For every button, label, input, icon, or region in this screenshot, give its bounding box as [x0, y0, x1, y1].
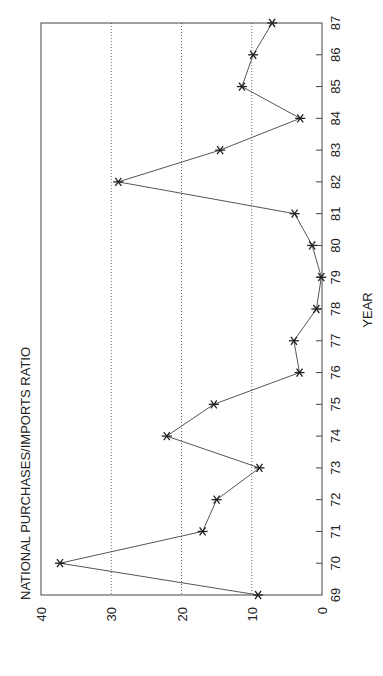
- data-series: [55, 19, 326, 599]
- year-tick-label: 80: [328, 238, 343, 252]
- grid-lines: [111, 23, 252, 595]
- asterisk-marker-icon: [253, 591, 263, 599]
- value-tick-label: 30: [104, 607, 119, 621]
- asterisk-marker-icon: [290, 210, 300, 218]
- asterisk-marker-icon: [55, 559, 65, 567]
- year-tick-label: 75: [328, 397, 343, 411]
- year-tick-label: 74: [328, 429, 343, 443]
- year-tick-label: 81: [328, 206, 343, 220]
- asterisk-marker-icon: [295, 369, 305, 377]
- axis-labels: 0102030406970717273747576777879808182838…: [34, 16, 343, 622]
- chart-canvas: 0102030406970717273747576777879808182838…: [0, 0, 383, 676]
- year-tick-label: 78: [328, 302, 343, 316]
- year-tick-label: 86: [328, 48, 343, 62]
- value-tick-label: 0: [315, 607, 330, 614]
- year-tick-label: 87: [328, 16, 343, 30]
- asterisk-marker-icon: [248, 51, 258, 59]
- series-line: [60, 23, 321, 595]
- year-tick-label: 82: [328, 175, 343, 189]
- asterisk-marker-icon: [267, 19, 277, 27]
- year-tick-label: 77: [328, 334, 343, 348]
- year-tick-label: 85: [328, 79, 343, 93]
- asterisk-marker-icon: [198, 527, 208, 535]
- value-tick-label: 10: [245, 607, 260, 621]
- year-tick-label: 84: [328, 111, 343, 125]
- chart: 0102030406970717273747576777879808182838…: [0, 0, 383, 676]
- value-tick-label: 20: [175, 607, 190, 621]
- value-tick-label: 40: [34, 607, 49, 621]
- year-tick-label: 69: [328, 588, 343, 602]
- asterisk-marker-icon: [307, 241, 317, 249]
- x-axis-label: YEAR: [360, 292, 375, 327]
- asterisk-marker-icon: [215, 146, 225, 154]
- year-tick-label: 83: [328, 143, 343, 157]
- year-tick-label: 76: [328, 365, 343, 379]
- year-tick-label: 71: [328, 524, 343, 538]
- asterisk-marker-icon: [113, 178, 123, 186]
- year-tick-label: 72: [328, 492, 343, 506]
- asterisk-marker-icon: [295, 114, 305, 122]
- chart-title: NATIONAL PURCHASES/IMPORTS RATIO: [18, 347, 33, 600]
- year-tick-label: 79: [328, 270, 343, 284]
- asterisk-marker-icon: [237, 83, 247, 91]
- year-tick-label: 73: [328, 461, 343, 475]
- year-tick-label: 70: [328, 556, 343, 570]
